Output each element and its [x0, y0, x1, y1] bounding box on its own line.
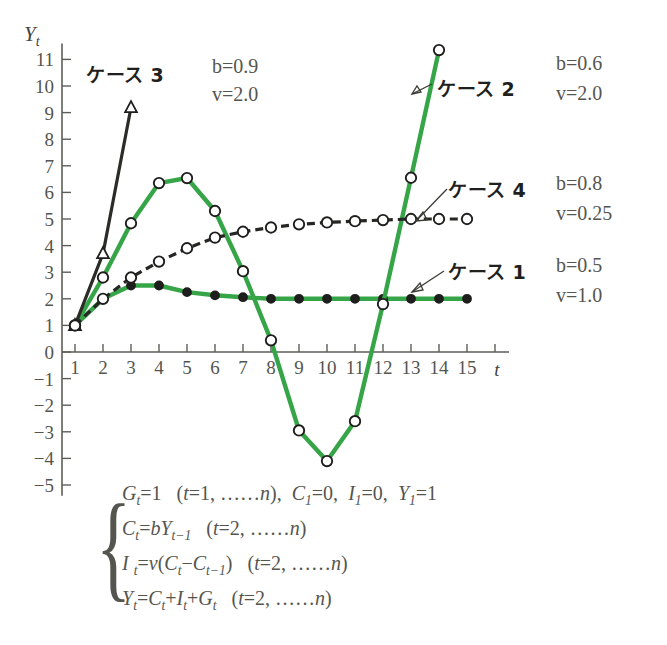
- annotation-case1-b: b=0.5: [556, 254, 602, 277]
- annotation-case3-b: b=0.9: [212, 55, 258, 78]
- annotation-case2-v: v=2.0: [556, 82, 602, 105]
- annotation-case4-v: v=0.25: [556, 202, 612, 225]
- x-axis-tick-label: 10: [318, 357, 337, 378]
- data-point-marker: [126, 272, 136, 282]
- y-axis-tick-label: 8: [45, 129, 55, 150]
- leader-case1-head: [412, 283, 423, 292]
- data-point-marker: [322, 456, 332, 466]
- data-point-marker: [378, 299, 388, 309]
- annotation-leader-lines: [412, 84, 447, 292]
- y-axis-tick-label: −4: [34, 448, 55, 469]
- annotation-case2-b: b=0.6: [556, 52, 602, 75]
- annotation-case3-v: v=2.0: [212, 83, 258, 106]
- y-axis-tick-label: 1: [45, 315, 55, 336]
- data-point-marker: [295, 295, 303, 303]
- data-point-marker: [378, 215, 388, 225]
- data-point-marker: [294, 425, 304, 435]
- equation-row-3: I t=v(Ct−Ct−1) (t=2, ……n): [122, 546, 566, 581]
- annotation-case1-v: v=1.0: [556, 284, 602, 307]
- data-point-marker: [407, 295, 415, 303]
- data-point-marker: [183, 288, 191, 296]
- equation-row-2: Ct=bYt−1 (t=2, ……n): [122, 511, 566, 546]
- x-axis-tick-label: 6: [210, 357, 220, 378]
- data-point-marker: [294, 219, 304, 229]
- x-axis-tick-label: 12: [374, 357, 393, 378]
- x-axis-tick-label: 7: [238, 357, 248, 378]
- leader-case1: [412, 271, 444, 292]
- x-axis-tick-label: 9: [294, 357, 304, 378]
- y-axis-tick-label: 3: [45, 262, 55, 283]
- data-point-marker: [211, 291, 219, 299]
- annotation-case1-label: ケース 1: [448, 257, 526, 284]
- data-point-marker: [462, 214, 472, 224]
- equation-row-4: Yt=Ct+It+Gt (t=2, ……n): [122, 581, 566, 616]
- equation-row-1: Gt=1 (t=1, ……n), C1=0, I1=0, Y1=1: [122, 476, 566, 511]
- data-point-marker: [406, 214, 416, 224]
- data-point-marker: [70, 320, 80, 330]
- data-point-marker: [323, 295, 331, 303]
- leader-case2-head: [412, 86, 421, 94]
- annotation-case4-label: ケース 4: [448, 175, 526, 202]
- x-axis-tick-label: 1: [70, 357, 80, 378]
- data-point-marker: [239, 293, 247, 301]
- data-point-marker: [126, 218, 136, 228]
- x-axis-tick-label: 3: [126, 357, 136, 378]
- data-point-marker: [267, 295, 275, 303]
- data-point-marker: [434, 214, 444, 224]
- y-axis-tick-label: 7: [45, 156, 55, 177]
- y-axis-tick-label: −2: [34, 395, 54, 416]
- data-point-marker: [155, 281, 163, 289]
- data-point-marker: [406, 173, 416, 183]
- y-axis-tick-label: −5: [34, 475, 54, 496]
- x-axis-tick-label: 4: [154, 357, 164, 378]
- data-point-marker: [434, 45, 444, 55]
- data-point-marker: [98, 272, 108, 282]
- y-axis-tick-label: 11: [36, 49, 54, 70]
- x-axis-tick-label: 8: [266, 357, 276, 378]
- x-axis-tick-label: 11: [346, 357, 364, 378]
- data-point-marker: [154, 256, 164, 266]
- data-point-marker: [125, 101, 137, 112]
- x-axis-name: t: [494, 359, 500, 380]
- y-axis-tick-label: 0: [45, 342, 55, 363]
- data-point-marker: [210, 232, 220, 242]
- x-axis-tick-label: 15: [458, 357, 477, 378]
- data-point-marker: [238, 266, 248, 276]
- data-point-marker: [350, 416, 360, 426]
- annotation-case4-b: b=0.8: [556, 172, 602, 195]
- model-equations: { Gt=1 (t=1, ……n), C1=0, I1=0, Y1=1 Ct=b…: [96, 476, 566, 618]
- data-point-marker: [182, 243, 192, 253]
- x-axis-tick-label: 13: [402, 357, 421, 378]
- leader-case4-head: [416, 212, 427, 221]
- data-point-marker: [97, 247, 109, 258]
- y-axis-tick-label: −3: [34, 422, 54, 443]
- annotation-case3-label: ケース 3: [86, 60, 164, 87]
- y-axis-tick-label: 4: [45, 236, 55, 257]
- series-line-1: [75, 286, 467, 326]
- data-point-marker: [266, 222, 276, 232]
- y-axis-tick-label: 6: [45, 182, 55, 203]
- data-point-marker: [98, 294, 108, 304]
- x-axis-tick-label: 2: [98, 357, 108, 378]
- data-point-marker: [182, 173, 192, 183]
- data-point-marker: [463, 295, 471, 303]
- data-point-marker: [154, 178, 164, 188]
- data-point-marker: [350, 216, 360, 226]
- data-point-marker: [210, 206, 220, 216]
- annotation-case2-label: ケース 2: [437, 74, 515, 101]
- y-axis-tick-label: −1: [34, 369, 54, 390]
- data-point-marker: [435, 295, 443, 303]
- y-axis-tick-label: 5: [45, 209, 55, 230]
- data-series: [69, 45, 472, 466]
- y-axis-tick-label: 9: [45, 103, 55, 124]
- data-point-marker: [266, 335, 276, 345]
- data-point-marker: [351, 295, 359, 303]
- y-axis-tick-label: 10: [35, 76, 54, 97]
- figure-canvas: Yt 11109876543210−1−2−3−4−51234567891011…: [0, 0, 667, 645]
- data-point-marker: [322, 217, 332, 227]
- x-axis-tick-label: 14: [430, 357, 450, 378]
- data-point-marker: [238, 227, 248, 237]
- x-axis-tick-label: 5: [182, 357, 192, 378]
- y-axis-tick-label: 2: [45, 289, 55, 310]
